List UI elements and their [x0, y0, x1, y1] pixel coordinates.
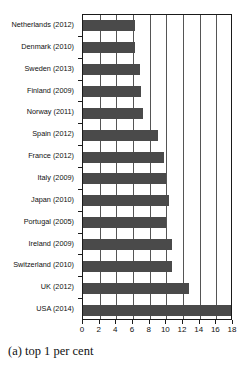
- x-axis-tick-6: [132, 320, 133, 324]
- figure-caption: (a) top 1 per cent: [8, 344, 93, 359]
- bar: [83, 239, 172, 250]
- bar-row: [83, 124, 231, 146]
- bar-row: [83, 81, 231, 103]
- x-axis-tick-16: [215, 320, 216, 324]
- bar-row: [83, 255, 231, 277]
- y-axis-label: UK (2012): [41, 276, 74, 298]
- x-axis-tick-label: 0: [80, 325, 84, 334]
- bar: [83, 64, 140, 75]
- bar-row: [83, 37, 231, 59]
- x-axis-tick-label: 18: [228, 325, 237, 334]
- bar-row: [83, 277, 231, 299]
- y-axis-label: France (2012): [28, 145, 74, 167]
- bar: [83, 305, 231, 316]
- x-axis-tick-12: [182, 320, 183, 324]
- figure-top-1-per-cent: Netherlands (2012)Denmark (2010)Sweden (…: [0, 0, 242, 374]
- bar: [83, 283, 189, 294]
- bar: [83, 108, 143, 119]
- bar: [83, 173, 166, 184]
- x-axis-tick-4: [115, 320, 116, 324]
- y-axis-label: Italy (2009): [37, 167, 74, 189]
- bar-row: [83, 102, 231, 124]
- x-axis-tick-labels: 024681012141618: [82, 325, 232, 337]
- y-axis-label: Sweden (2013): [25, 58, 75, 80]
- y-axis-category-labels: Netherlands (2012)Denmark (2010)Sweden (…: [0, 14, 78, 320]
- bar: [83, 195, 169, 206]
- bar: [83, 42, 135, 53]
- y-axis-label: USA (2014): [36, 298, 74, 320]
- y-axis-label: Switzerland (2010): [13, 254, 74, 276]
- x-axis-tick-14: [199, 320, 200, 324]
- bar: [83, 86, 141, 97]
- x-axis-tick-label: 16: [211, 325, 220, 334]
- y-axis-label: Japan (2010): [31, 189, 74, 211]
- bar-row: [83, 59, 231, 81]
- x-axis-tick-label: 14: [194, 325, 203, 334]
- x-axis-tick-label: 6: [130, 325, 134, 334]
- x-axis-tick-2: [99, 320, 100, 324]
- bar-row: [83, 168, 231, 190]
- x-axis-tick-18: [232, 320, 233, 324]
- bar-series: [83, 15, 231, 319]
- x-axis-tick-label: 8: [146, 325, 150, 334]
- bar: [83, 20, 135, 31]
- bar-row: [83, 299, 231, 321]
- bar: [83, 130, 158, 141]
- y-axis-label: Portugal (2005): [24, 211, 74, 233]
- x-axis-tick-label: 2: [96, 325, 100, 334]
- bar: [83, 152, 164, 163]
- y-axis-label: Denmark (2010): [21, 36, 74, 58]
- bar: [83, 217, 166, 228]
- y-axis-label: Finland (2009): [27, 80, 74, 102]
- bar-row: [83, 190, 231, 212]
- bar-row: [83, 146, 231, 168]
- bar: [83, 261, 172, 272]
- x-axis-tick-10: [165, 320, 166, 324]
- y-axis-label: Spain (2012): [32, 123, 74, 145]
- x-axis-tick-8: [149, 320, 150, 324]
- x-axis-tick-label: 4: [113, 325, 117, 334]
- x-axis-tick-0: [82, 320, 83, 324]
- x-axis-tick-label: 12: [178, 325, 187, 334]
- y-axis-label: Netherlands (2012): [12, 14, 74, 36]
- x-axis-tick-label: 10: [161, 325, 170, 334]
- x-axis-ticks: [82, 320, 232, 324]
- y-axis-label: Norway (2011): [27, 101, 74, 123]
- y-axis-label: Ireland (2009): [29, 233, 74, 255]
- plot-area: [82, 14, 232, 320]
- bar-row: [83, 15, 231, 37]
- bar-row: [83, 212, 231, 234]
- bar-row: [83, 234, 231, 256]
